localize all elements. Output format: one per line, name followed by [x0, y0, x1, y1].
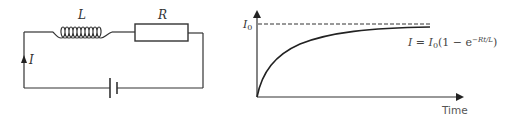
current-growth-curve — [257, 27, 430, 97]
inductor-label: L — [77, 8, 86, 22]
inductor-coil — [53, 27, 112, 38]
rl-circuit-diagram: L R I I0 I = I0(1 − e−Rt/L) Time — [0, 0, 513, 124]
equation-label: I = I0(1 − e−Rt/L) — [407, 36, 497, 50]
graph — [257, 14, 460, 97]
current-arrow-icon — [21, 55, 27, 63]
circuit — [24, 24, 203, 98]
current-label: I — [28, 53, 34, 67]
resistor — [135, 24, 188, 41]
x-axis-label: Time — [441, 104, 468, 116]
resistor-label: R — [157, 8, 167, 22]
y-max-label: I0 — [242, 18, 252, 32]
